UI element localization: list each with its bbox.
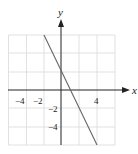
y-axis-label: y — [57, 6, 63, 18]
y-axis — [58, 19, 64, 145]
y-axis-arrow-icon — [58, 19, 64, 27]
y-tick-label: −2 — [48, 104, 58, 114]
x-tick-label: −2 — [33, 96, 43, 106]
x-tick-label: 4 — [94, 96, 99, 106]
x-axis-arrow-icon — [122, 87, 130, 93]
x-axis-label: x — [131, 84, 137, 96]
x-tick-label: −4 — [15, 96, 25, 106]
y-tick-label: −4 — [48, 122, 58, 132]
graph: x y −4 −2 4 −2 −4 — [0, 0, 138, 154]
